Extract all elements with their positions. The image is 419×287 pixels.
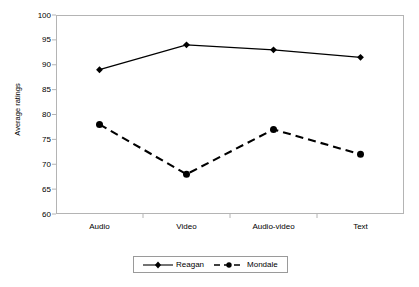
y-tick-label: 100 bbox=[27, 11, 51, 20]
legend-label-mondale: Mondale bbox=[247, 260, 278, 269]
x-tick-label: Audio bbox=[60, 222, 140, 231]
y-tick-label: 80 bbox=[27, 110, 51, 119]
chart-legend: Reagan Mondale bbox=[133, 256, 288, 273]
legend-label-reagan: Reagan bbox=[176, 260, 204, 269]
x-tick-label: Text bbox=[321, 222, 401, 231]
line-chart: Average ratings 6065707580859095100 Audi… bbox=[0, 0, 419, 287]
plot-area bbox=[56, 15, 404, 214]
y-tick-label: 95 bbox=[27, 35, 51, 44]
y-tick-label: 70 bbox=[27, 160, 51, 169]
y-axis-title: Average ratings bbox=[13, 74, 22, 146]
legend-entry-mondale: Mondale bbox=[214, 260, 278, 270]
y-tick-label: 65 bbox=[27, 185, 51, 194]
y-tick-label: 60 bbox=[27, 210, 51, 219]
x-tick-label: Video bbox=[147, 222, 227, 231]
legend-entry-reagan: Reagan bbox=[143, 260, 204, 270]
y-tick-label: 75 bbox=[27, 135, 51, 144]
y-tick-label: 90 bbox=[27, 60, 51, 69]
legend-swatch-reagan bbox=[143, 260, 173, 270]
y-tick-label: 85 bbox=[27, 85, 51, 94]
legend-swatch-mondale bbox=[214, 260, 244, 270]
x-tick-label: Audio-video bbox=[234, 222, 314, 231]
x-axis-tick-marks bbox=[143, 214, 317, 218]
